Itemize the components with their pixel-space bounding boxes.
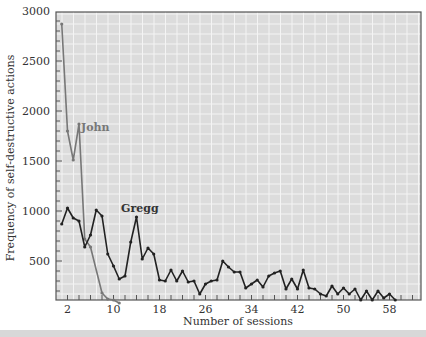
- page-edge: [0, 330, 426, 337]
- data-point: [100, 291, 103, 294]
- data-point: [187, 280, 190, 283]
- data-point: [164, 279, 167, 282]
- data-point: [382, 296, 385, 299]
- data-point: [284, 287, 287, 290]
- data-point: [348, 292, 351, 295]
- data-point: [353, 287, 356, 290]
- data-point: [106, 252, 109, 255]
- data-point: [307, 286, 310, 289]
- data-point: [141, 257, 144, 260]
- data-point: [319, 292, 322, 295]
- data-point: [273, 271, 276, 274]
- data-point: [388, 292, 391, 295]
- data-point: [95, 208, 98, 211]
- data-point: [233, 270, 236, 273]
- series-label-gregg: Gregg: [121, 202, 159, 215]
- x-axis-title: Number of sessions: [183, 315, 293, 328]
- y-tick-label: 2000: [22, 105, 50, 118]
- data-point: [60, 22, 63, 25]
- series-label-john: John: [80, 121, 110, 134]
- data-point: [204, 282, 207, 285]
- data-point: [72, 216, 75, 219]
- y-tick-label: 1500: [22, 155, 50, 168]
- data-point: [261, 285, 264, 288]
- data-point: [336, 292, 339, 295]
- data-point: [112, 264, 115, 267]
- data-point: [106, 297, 109, 300]
- data-point: [267, 274, 270, 277]
- y-tick-label: 2500: [22, 55, 50, 68]
- data-point: [60, 222, 63, 225]
- x-tick-label: 50: [337, 303, 351, 316]
- x-tick-label: 18: [153, 303, 167, 316]
- data-point: [83, 245, 86, 248]
- data-point: [210, 279, 213, 282]
- data-point: [394, 298, 397, 301]
- y-axis-title: Frequency of self-destructive actions: [4, 54, 17, 261]
- x-tick-label: 58: [383, 303, 397, 316]
- data-point: [118, 301, 121, 304]
- x-tick-label: 10: [107, 303, 121, 316]
- data-point: [376, 289, 379, 292]
- data-point: [66, 129, 69, 132]
- data-point: [279, 269, 282, 272]
- y-tick-label: 3000: [22, 5, 50, 18]
- data-point: [129, 240, 132, 243]
- data-point: [313, 287, 316, 290]
- data-point: [221, 259, 224, 262]
- data-point: [325, 294, 328, 297]
- data-point: [123, 274, 126, 277]
- data-point: [215, 278, 218, 281]
- y-tick-label: 1000: [22, 205, 50, 218]
- data-point: [359, 298, 362, 301]
- data-point: [77, 219, 80, 222]
- data-point: [152, 252, 155, 255]
- data-point: [342, 286, 345, 289]
- x-tick-label: 2: [64, 303, 71, 316]
- y-tick-label: 500: [29, 255, 50, 268]
- data-point: [118, 277, 121, 280]
- data-point: [244, 286, 247, 289]
- data-point: [169, 268, 172, 271]
- data-point: [89, 233, 92, 236]
- data-point: [135, 215, 138, 218]
- data-point: [302, 268, 305, 271]
- data-point: [175, 279, 178, 282]
- data-point: [181, 269, 184, 272]
- data-point: [158, 278, 161, 281]
- data-point: [100, 214, 103, 217]
- data-point: [256, 278, 259, 281]
- data-point: [238, 270, 241, 273]
- data-point: [192, 279, 195, 282]
- line-chart: 50010001500200025003000 210182634425058 …: [0, 0, 426, 337]
- data-point: [227, 265, 230, 268]
- data-point: [112, 298, 115, 301]
- plot-grid: [56, 12, 421, 300]
- data-point: [296, 287, 299, 290]
- data-point: [365, 289, 368, 292]
- data-point: [66, 206, 69, 209]
- data-point: [330, 284, 333, 287]
- data-point: [198, 292, 201, 295]
- data-point: [72, 158, 75, 161]
- data-point: [290, 277, 293, 280]
- data-point: [89, 245, 92, 248]
- data-point: [146, 246, 149, 249]
- data-point: [371, 298, 374, 301]
- data-point: [250, 282, 253, 285]
